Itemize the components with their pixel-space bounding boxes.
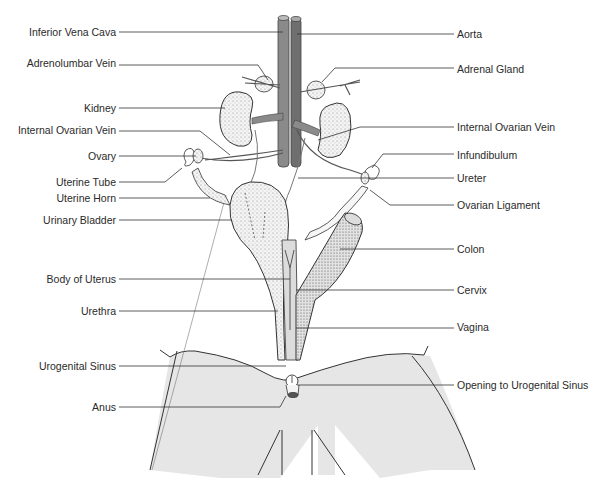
label-infundibulum: Infundibulum (457, 149, 517, 161)
label-ovarian-ligament: Ovarian Ligament (457, 199, 540, 211)
label-uterine-horn: Uterine Horn (56, 192, 116, 204)
urogenital-diagram: Inferior Vena Cava Adrenolumbar Vein Kid… (0, 0, 601, 492)
label-adrenolumbar-vein: Adrenolumbar Vein (27, 57, 116, 69)
left-kidney (220, 92, 253, 146)
label-anus: Anus (92, 401, 116, 413)
label-body-of-uterus: Body of Uterus (47, 273, 116, 285)
label-internal-ovarian-vein-right: Internal Ovarian Vein (457, 121, 555, 133)
colon-shape (296, 213, 362, 360)
label-uterine-tube: Uterine Tube (56, 176, 116, 188)
urinary-bladder-shape (230, 182, 289, 360)
label-adrenal-gland: Adrenal Gland (457, 63, 524, 75)
inferior-vena-cava-vessel (278, 17, 289, 167)
left-uterine-horn (192, 168, 230, 205)
label-opening-to-urogenital-sinus: Opening to Urogenital Sinus (457, 379, 588, 391)
aorta-vessel (291, 18, 301, 167)
label-urinary-bladder: Urinary Bladder (43, 214, 116, 226)
anus-opening (288, 393, 298, 398)
label-vagina: Vagina (457, 321, 489, 333)
label-colon: Colon (457, 243, 484, 255)
label-urogenital-sinus: Urogenital Sinus (39, 360, 116, 372)
label-urethra: Urethra (81, 305, 116, 317)
label-ovary: Ovary (88, 150, 116, 162)
label-inferior-vena-cava: Inferior Vena Cava (29, 26, 116, 38)
label-ureter: Ureter (457, 172, 486, 184)
label-kidney: Kidney (84, 102, 116, 114)
right-kidney (318, 103, 351, 158)
label-aorta: Aorta (457, 28, 482, 40)
label-cervix: Cervix (457, 284, 487, 296)
label-internal-ovarian-vein-left: Internal Ovarian Vein (18, 124, 116, 136)
